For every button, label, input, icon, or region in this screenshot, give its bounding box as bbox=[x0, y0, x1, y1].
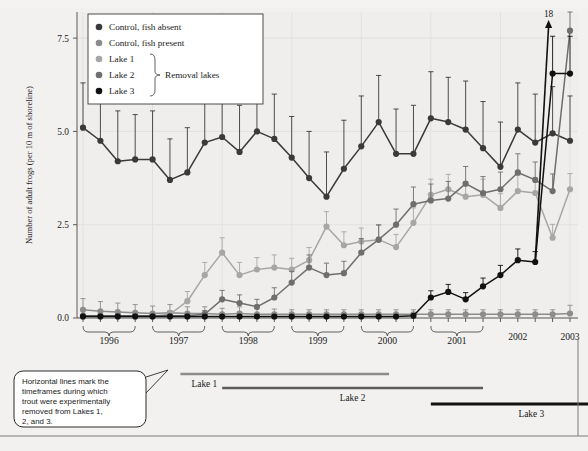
data-point bbox=[219, 313, 225, 319]
data-point bbox=[184, 169, 190, 175]
data-point bbox=[515, 169, 521, 175]
legend-marker bbox=[96, 88, 103, 95]
data-point bbox=[550, 235, 556, 241]
legend-entry-label: Lake 1 bbox=[109, 54, 135, 64]
data-point bbox=[289, 313, 295, 319]
data-point bbox=[428, 115, 434, 121]
y-tick-label: 0.0 bbox=[57, 313, 69, 323]
data-point bbox=[236, 313, 242, 319]
data-point bbox=[202, 140, 208, 146]
data-point bbox=[567, 28, 573, 34]
frog-abundance-chart: 0.02.55.07.5Number of adult frogs (per 1… bbox=[0, 0, 588, 451]
data-point bbox=[463, 194, 469, 200]
x-year-label-single: 2003 bbox=[560, 331, 579, 342]
data-point bbox=[323, 313, 329, 319]
data-point bbox=[567, 70, 573, 76]
data-point bbox=[149, 156, 155, 162]
x-year-label: 1999 bbox=[308, 335, 327, 346]
data-point bbox=[323, 272, 329, 278]
data-point bbox=[254, 266, 260, 272]
data-point bbox=[515, 311, 521, 317]
callout-text-line: timeframes during which bbox=[22, 387, 108, 396]
y-tick-label: 2.5 bbox=[57, 220, 69, 230]
legend-marker bbox=[96, 72, 103, 79]
data-point bbox=[532, 140, 538, 146]
legend-entry-label: Lake 3 bbox=[109, 86, 135, 96]
data-point bbox=[219, 134, 225, 140]
data-point bbox=[341, 166, 347, 172]
data-point bbox=[497, 205, 503, 211]
data-point bbox=[219, 296, 225, 302]
data-point bbox=[550, 188, 556, 194]
legend-entry-label: Control, fish present bbox=[109, 38, 185, 48]
data-point bbox=[358, 313, 364, 319]
data-point bbox=[445, 311, 451, 317]
data-point bbox=[341, 313, 347, 319]
data-point bbox=[550, 130, 556, 136]
data-point bbox=[428, 294, 434, 300]
data-point bbox=[236, 272, 242, 278]
data-point bbox=[97, 313, 103, 319]
legend-marker bbox=[96, 24, 103, 31]
data-point bbox=[515, 126, 521, 132]
data-point bbox=[410, 201, 416, 207]
data-point bbox=[306, 313, 312, 319]
data-point bbox=[202, 272, 208, 278]
data-point bbox=[376, 313, 382, 319]
data-point bbox=[393, 222, 399, 228]
data-point bbox=[567, 186, 573, 192]
x-year-label: 1996 bbox=[99, 335, 118, 346]
legend-group-label: Removal lakes bbox=[165, 70, 220, 80]
data-point bbox=[480, 190, 486, 196]
x-year-label: 1997 bbox=[169, 335, 188, 346]
data-point bbox=[497, 272, 503, 278]
x-year-label: 2001 bbox=[447, 335, 466, 346]
data-point bbox=[497, 311, 503, 317]
callout-text-line: removed from Lakes 1, bbox=[22, 407, 103, 416]
data-point bbox=[463, 181, 469, 187]
data-point bbox=[323, 194, 329, 200]
data-point bbox=[515, 257, 521, 263]
data-point bbox=[393, 244, 399, 250]
legend-marker bbox=[96, 56, 103, 63]
data-point bbox=[202, 313, 208, 319]
callout-text-line: Horizontal lines mark the bbox=[22, 377, 109, 386]
data-point bbox=[184, 313, 190, 319]
data-point bbox=[167, 177, 173, 183]
data-point bbox=[236, 149, 242, 155]
offscale-value-label: 18 bbox=[544, 9, 554, 19]
data-point bbox=[410, 220, 416, 226]
data-point bbox=[167, 313, 173, 319]
data-point bbox=[480, 283, 486, 289]
x-year-label-single: 2002 bbox=[508, 331, 527, 342]
data-point bbox=[97, 138, 103, 144]
callout-pointer bbox=[146, 370, 168, 393]
data-point bbox=[463, 311, 469, 317]
data-point bbox=[306, 265, 312, 271]
removal-bar-label: Lake 2 bbox=[340, 393, 366, 403]
data-point bbox=[271, 265, 277, 271]
data-point bbox=[306, 175, 312, 181]
data-point bbox=[358, 143, 364, 149]
data-point bbox=[393, 151, 399, 157]
data-point bbox=[254, 304, 260, 310]
data-point bbox=[115, 158, 121, 164]
data-point bbox=[271, 136, 277, 142]
data-point bbox=[254, 128, 260, 134]
callout-text-line: 2, and 3. bbox=[22, 417, 53, 426]
data-point bbox=[376, 237, 382, 243]
x-year-label: 1998 bbox=[239, 335, 258, 346]
data-point bbox=[550, 70, 556, 76]
data-point bbox=[115, 313, 121, 319]
data-point bbox=[550, 311, 556, 317]
y-tick-label: 5.0 bbox=[57, 127, 69, 137]
data-point bbox=[497, 186, 503, 192]
data-point bbox=[341, 270, 347, 276]
data-point bbox=[428, 197, 434, 203]
data-point bbox=[236, 300, 242, 306]
data-point bbox=[445, 119, 451, 125]
data-point bbox=[463, 126, 469, 132]
data-point bbox=[428, 311, 434, 317]
data-point bbox=[80, 307, 86, 313]
legend-entry-label: Control, fish absent bbox=[109, 22, 182, 32]
